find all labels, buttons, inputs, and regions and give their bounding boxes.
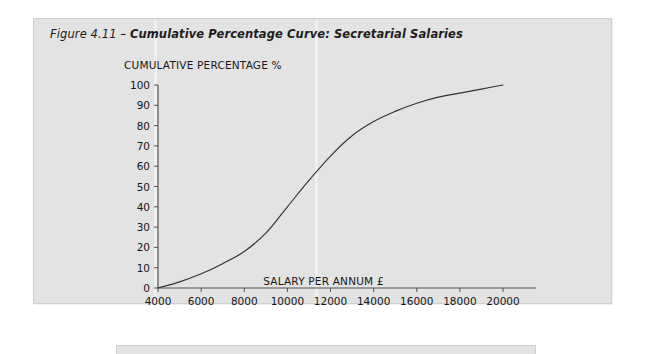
x-tick-label: 8000 [231,295,258,307]
y-tick-label: 30 [112,221,150,233]
y-tick-label: 50 [112,181,150,193]
y-tick-label: 60 [112,160,150,172]
x-tick-label: 6000 [188,295,215,307]
y-tick-label: 40 [112,201,150,213]
x-tick-label: 14000 [357,295,390,307]
chart-axes [158,85,536,288]
chart-ticks [154,85,503,292]
y-tick-label: 90 [112,99,150,111]
x-axis-title: SALARY PER ANNUM £ [34,275,613,287]
x-tick-label: 18000 [443,295,476,307]
x-tick-label: 20000 [486,295,519,307]
x-tick-label: 12000 [314,295,347,307]
figure-panel: Figure 4.11 – Cumulative Percentage Curv… [33,18,612,304]
chart-plot-area: CUMULATIVE PERCENTAGE % 0102030405060708… [34,19,613,305]
cumulative-percentage-curve [158,85,503,288]
y-tick-label: 70 [112,140,150,152]
x-tick-label: 10000 [271,295,304,307]
x-tick-label: 4000 [145,295,172,307]
y-tick-label: 100 [112,79,150,91]
x-tick-label: 16000 [400,295,433,307]
y-tick-label: 80 [112,120,150,132]
next-figure-top-edge [116,345,536,354]
y-tick-label: 10 [112,262,150,274]
y-tick-label: 20 [112,241,150,253]
